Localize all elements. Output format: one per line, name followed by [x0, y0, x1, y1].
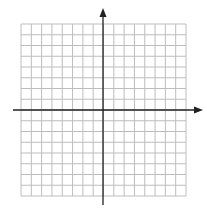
coordinate-plane — [0, 0, 207, 210]
coordinate-grid-graphic — [0, 0, 207, 210]
y-axis-arrow-icon — [100, 8, 107, 17]
x-axis-arrow-icon — [194, 107, 203, 114]
